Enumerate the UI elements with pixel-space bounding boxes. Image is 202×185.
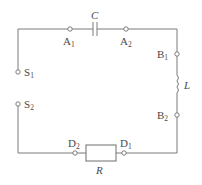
label-b2: B2 bbox=[157, 109, 168, 123]
terminal-s1 bbox=[16, 70, 20, 74]
wire-a2-to-b1 bbox=[128, 29, 177, 52]
terminal-b1 bbox=[175, 52, 179, 56]
label-s2: S2 bbox=[24, 98, 34, 112]
terminal-labels: A1 A2 B1 B2 D1 D2 S1 S2 bbox=[24, 35, 168, 151]
inductor-label: L bbox=[183, 79, 190, 91]
terminal-a1 bbox=[68, 27, 72, 31]
resistor-body bbox=[86, 145, 116, 161]
wire-b2-to-d1 bbox=[126, 117, 177, 153]
terminal-b2 bbox=[175, 113, 179, 117]
label-a2: A2 bbox=[120, 35, 132, 49]
label-a1: A1 bbox=[63, 35, 75, 49]
terminal-s2 bbox=[16, 102, 20, 106]
terminal-d1 bbox=[122, 151, 126, 155]
inductor-coil-icon bbox=[177, 75, 179, 93]
inductor: L bbox=[177, 75, 190, 93]
terminals bbox=[16, 27, 179, 155]
wires bbox=[18, 29, 177, 153]
resistor-label: R bbox=[95, 164, 103, 176]
wire-s1-to-a1 bbox=[18, 29, 68, 70]
wire-d2-to-s2 bbox=[18, 106, 73, 153]
label-s1: S1 bbox=[24, 66, 34, 80]
terminal-a2 bbox=[124, 27, 128, 31]
label-b1: B1 bbox=[157, 48, 168, 62]
label-d2: D2 bbox=[68, 137, 80, 151]
capacitor-label: C bbox=[91, 9, 99, 21]
label-d1: D1 bbox=[120, 137, 132, 151]
terminal-d2 bbox=[73, 151, 77, 155]
circuit-diagram: C L R A1 A2 B1 B2 D1 D2 S1 S2 bbox=[0, 0, 202, 185]
resistor: R bbox=[86, 145, 116, 176]
capacitor: C bbox=[91, 9, 99, 36]
